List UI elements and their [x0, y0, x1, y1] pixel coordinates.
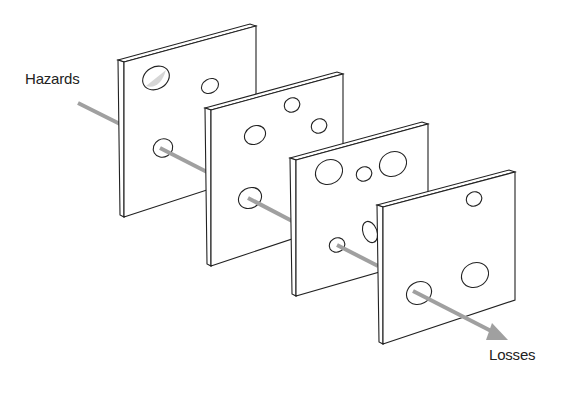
hazards-label: Hazards: [25, 70, 79, 87]
swiss-cheese-diagram: [0, 0, 568, 394]
arrowhead-icon: [486, 323, 508, 340]
losses-label: Losses: [489, 346, 535, 363]
hazard-arrow-start: [78, 103, 122, 125]
